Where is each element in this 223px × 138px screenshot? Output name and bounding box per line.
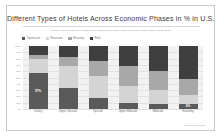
y-axis-tick-label: 50% — [16, 76, 21, 79]
y-axis-tick-label: 30% — [16, 89, 21, 92]
bar-slot — [113, 46, 143, 109]
x-axis-category-label: Economy — [173, 110, 203, 113]
bar-segment[interactable] — [29, 59, 48, 73]
stacked-bar[interactable] — [149, 46, 168, 109]
bar-segment[interactable]: 57% — [29, 73, 48, 109]
legend-item[interactable]: Peak — [90, 37, 101, 40]
bar-segment[interactable] — [149, 71, 168, 90]
y-axis-tick-label: 80% — [16, 57, 21, 60]
bar-segment[interactable] — [89, 76, 108, 97]
legend-swatch-icon — [90, 37, 93, 40]
stacked-bar[interactable] — [119, 46, 138, 109]
bar-segment[interactable] — [59, 66, 78, 89]
y-axis: 100%90%80%70%60%50%40%30%20%10%0% — [8, 46, 22, 109]
stacked-bar[interactable] — [89, 46, 108, 109]
x-axis-category-label: Upper Midscale — [113, 110, 143, 113]
legend-label: Depression — [27, 37, 40, 40]
y-axis-tick-label: 100% — [15, 45, 21, 48]
legend-label: Peak — [95, 37, 101, 40]
bar-slot: 8% — [173, 46, 203, 109]
source-note: Source: STR (2021) — [185, 124, 205, 126]
bar-value-label: 8% — [179, 104, 198, 108]
legend-item[interactable]: Depression — [22, 37, 40, 40]
chart-legend: DepressionRecessionRecoveryPeak — [22, 37, 101, 40]
bar-slot — [83, 46, 113, 109]
bar-value-label: 57% — [29, 89, 48, 93]
bar-segment[interactable] — [179, 95, 198, 104]
y-axis-tick-label: 0% — [18, 108, 21, 111]
bar-group: 57%8% — [23, 46, 203, 109]
x-axis-category-label: Upscale — [83, 110, 113, 113]
bar-segment[interactable] — [119, 86, 138, 104]
title-divider — [23, 26, 200, 27]
bar-slot — [53, 46, 83, 109]
bar-segment[interactable] — [149, 46, 168, 71]
legend-swatch-icon — [68, 37, 71, 40]
bar-slot — [143, 46, 173, 109]
legend-swatch-icon — [46, 37, 49, 40]
chart-subtitle: Weekly Hotel Revenue per Available Room … — [7, 28, 214, 31]
bar-segment[interactable] — [59, 57, 78, 65]
bar-segment[interactable] — [89, 98, 108, 109]
bar-segment[interactable] — [59, 46, 78, 57]
y-axis-tick-label: 70% — [16, 63, 21, 66]
y-axis-tick-label: 10% — [16, 101, 21, 104]
y-axis-tick-label: 60% — [16, 70, 21, 73]
bar-segment[interactable] — [119, 103, 138, 109]
legend-label: Recovery — [73, 37, 84, 40]
bar-segment[interactable] — [179, 79, 198, 95]
bar-segment[interactable] — [149, 90, 168, 104]
x-axis-category-label: Luxury — [23, 110, 53, 113]
y-axis-tick-label: 90% — [16, 51, 21, 54]
bar-segment[interactable] — [179, 46, 198, 79]
legend-item[interactable]: Recovery — [68, 37, 84, 40]
bar-segment[interactable] — [59, 88, 78, 109]
x-axis: LuxuryUpper UpscaleUpscaleUpper Midscale… — [23, 110, 203, 113]
bar-segment[interactable]: 8% — [179, 104, 198, 109]
bar-segment[interactable] — [29, 46, 48, 55]
legend-item[interactable]: Recession — [46, 37, 63, 40]
chart-card: Different Types of Hotels Across Economi… — [6, 5, 215, 131]
bar-segment[interactable] — [119, 46, 138, 66]
x-axis-category-label: Midscale — [143, 110, 173, 113]
stacked-bar[interactable]: 57% — [29, 46, 48, 109]
legend-label: Recession — [51, 37, 63, 40]
bar-slot: 57% — [23, 46, 53, 109]
y-axis-tick-label: 20% — [16, 95, 21, 98]
legend-swatch-icon — [22, 37, 25, 40]
x-axis-category-label: Upper Upscale — [53, 110, 83, 113]
bar-segment[interactable] — [89, 46, 108, 61]
bar-segment[interactable] — [119, 66, 138, 86]
plot-area: 100%90%80%70%60%50%40%30%20%10%0% 57%8% — [23, 46, 203, 109]
y-axis-tick-label: 40% — [16, 82, 21, 85]
stacked-bar[interactable]: 8% — [179, 46, 198, 109]
chart-title: Different Types of Hotels Across Economi… — [7, 15, 214, 23]
bar-segment[interactable] — [89, 61, 108, 76]
stacked-bar[interactable] — [59, 46, 78, 109]
bar-segment[interactable] — [149, 104, 168, 109]
